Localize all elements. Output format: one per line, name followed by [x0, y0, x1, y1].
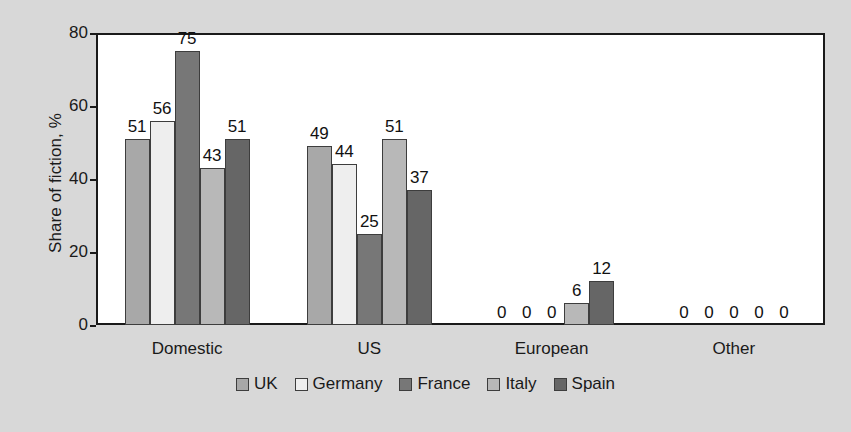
bar-value-label: 0	[704, 303, 713, 323]
bar	[307, 146, 332, 325]
y-tick-label: 40	[30, 169, 88, 189]
legend-swatch-icon	[487, 378, 500, 391]
legend-label: UK	[254, 374, 278, 394]
bar	[125, 139, 150, 325]
bar-value-label: 0	[729, 303, 738, 323]
legend-label: Germany	[313, 374, 383, 394]
bar-value-label: 12	[592, 259, 611, 279]
chart-legend: UKGermanyFranceItalySpain	[0, 374, 851, 394]
bar-value-label: 75	[178, 29, 197, 49]
legend-swatch-icon	[554, 378, 567, 391]
bar-value-label: 49	[310, 124, 329, 144]
y-tick-mark	[90, 325, 96, 327]
bar	[150, 121, 175, 325]
bar-value-label: 0	[547, 303, 556, 323]
y-tick-label: 80	[30, 23, 88, 43]
bar-value-label: 51	[228, 117, 247, 137]
bar-value-label: 44	[335, 142, 354, 162]
bar-value-label: 6	[572, 281, 581, 301]
bar-value-label: 0	[779, 303, 788, 323]
bar	[382, 139, 407, 325]
bar-value-label: 25	[360, 212, 379, 232]
bar	[175, 51, 200, 325]
bar-value-label: 37	[410, 168, 429, 188]
legend-item-germany[interactable]: Germany	[295, 374, 383, 394]
legend-swatch-icon	[295, 378, 308, 391]
x-category-label: European	[515, 339, 589, 359]
legend-label: Spain	[572, 374, 615, 394]
legend-swatch-icon	[399, 378, 412, 391]
x-category-label: Domestic	[152, 339, 223, 359]
bar-value-label: 56	[153, 99, 172, 119]
legend-item-italy[interactable]: Italy	[487, 374, 536, 394]
bar-value-label: 0	[679, 303, 688, 323]
legend-label: Italy	[505, 374, 536, 394]
bar	[589, 281, 614, 325]
legend-label: France	[417, 374, 470, 394]
legend-swatch-icon	[236, 378, 249, 391]
y-tick-label: 0	[30, 315, 88, 335]
bar-value-label: 0	[522, 303, 531, 323]
bar	[332, 164, 357, 325]
bar-value-label: 0	[497, 303, 506, 323]
x-category-label: Other	[713, 339, 756, 359]
x-category-label: US	[358, 339, 382, 359]
bar	[407, 190, 432, 325]
legend-item-uk[interactable]: UK	[236, 374, 278, 394]
legend-item-france[interactable]: France	[399, 374, 470, 394]
bars-layer: 5156754351494425513700061200000	[96, 33, 825, 325]
bar	[225, 139, 250, 325]
bar	[200, 168, 225, 325]
y-tick-label: 60	[30, 96, 88, 116]
bar-value-label: 51	[128, 117, 147, 137]
bar-value-label: 0	[754, 303, 763, 323]
bar	[357, 234, 382, 325]
bar-value-label: 43	[203, 146, 222, 166]
bar	[564, 303, 589, 325]
y-tick-label: 20	[30, 242, 88, 262]
legend-item-spain[interactable]: Spain	[554, 374, 615, 394]
bar-value-label: 51	[385, 117, 404, 137]
bar-chart-figure: Share of fiction, % 020406080 5156754351…	[0, 0, 851, 432]
